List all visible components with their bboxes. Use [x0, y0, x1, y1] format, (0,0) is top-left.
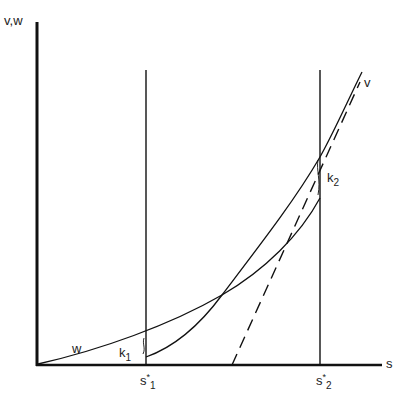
s1-star-label: s*1 [140, 374, 156, 387]
s2-subscript: 2 [326, 380, 332, 391]
w-curve-label: w [72, 342, 81, 355]
k2-gap-marker [318, 160, 319, 195]
y-axis-label: v,w [4, 14, 23, 27]
k1-subscript: 1 [126, 352, 132, 363]
s2-base: s [316, 373, 323, 388]
k1-label: k1 [119, 346, 131, 359]
v-curve [146, 72, 362, 357]
diagram: v,w s v w k1 k2 s*1 s*2 [0, 0, 407, 402]
k1-base: k [119, 345, 126, 360]
k2-base: k [327, 170, 334, 185]
s1-base: s [140, 373, 147, 388]
x-axis-label: s [386, 357, 393, 370]
s2-star-label: s*2 [316, 374, 332, 387]
s1-subscript: 1 [150, 380, 156, 391]
v-curve-label: v [364, 76, 371, 89]
k2-subscript: 2 [334, 177, 340, 188]
diagram-canvas [0, 0, 407, 402]
k1-gap-marker [143, 338, 144, 354]
tangent-dashed-line [232, 82, 360, 365]
k2-label: k2 [327, 171, 339, 184]
